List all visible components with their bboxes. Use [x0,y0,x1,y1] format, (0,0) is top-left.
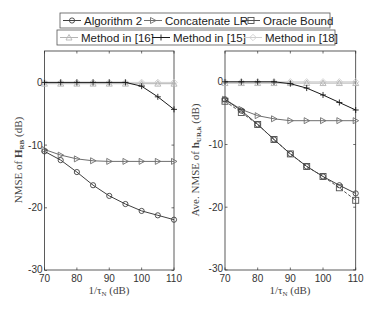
y-tick-label: -10 [28,140,43,151]
x-tick-label: 70 [39,273,51,284]
x-tick-label: 80 [71,273,83,284]
legend-label: Method in [16] [81,32,154,44]
legend-label: Algorithm 2 [84,15,142,27]
left-x-axis-label: 1/τN (dB) [89,284,130,298]
legend-label: Oracle Bound [263,15,333,27]
y-tick-label: -10 [209,139,224,150]
x-tick-label: 110 [166,273,182,284]
right-x-axis-label: 1/τN (dB) [270,284,311,298]
x-tick-label: 90 [285,273,297,284]
left-plot: 7080901001100-10-20-30 NMSE of HRB (dB) … [12,51,182,298]
y-tick-label: -20 [209,202,224,213]
x-tick-label: 90 [104,273,116,284]
figure: Algorithm 2Concatenate LROracle Bound Me… [0,0,373,309]
x-tick-label: 80 [252,273,264,284]
legend-row2: Method in [16]Method in [15]Method in [1… [60,32,338,44]
legend: Algorithm 2Concatenate LROracle Bound Me… [57,13,338,45]
left-y-axis-label: NMSE of HRB (dB) [12,116,26,203]
right-y-axis-label: Ave. NMSE of hUR,k (dB) [189,103,203,216]
x-tick-label: 70 [219,273,231,284]
y-tick-label: -30 [209,263,224,274]
x-tick-label: 110 [348,273,364,284]
x-tick-label: 100 [133,273,150,284]
legend-label: Method in [18] [265,32,338,44]
right-plot: 7080901001100-10-20-30 Ave. NMSE of hUR,… [189,51,364,298]
x-tick-label: 100 [315,273,332,284]
legend-label: Method in [15] [173,32,246,44]
y-tick-label: -20 [28,202,43,213]
legend-row1: Algorithm 2Concatenate LROracle Bound [63,15,333,27]
y-tick-label: -30 [28,264,43,275]
legend-label: Concatenate LR [165,15,248,27]
